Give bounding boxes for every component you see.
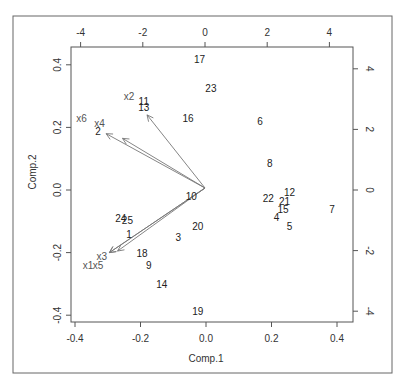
biplot-figure: -0.4-0.20.00.20.4-0.4-0.20.00.20.4-4-202… [0,0,402,383]
bottom-tick-label: 0.2 [265,333,279,344]
biplot-chart: -0.4-0.20.00.20.4-0.4-0.20.00.20.4-4-202… [0,0,402,383]
bottom-tick-label: 0.0 [199,333,213,344]
observation-label-10: 10 [186,191,198,202]
observation-label-19: 19 [192,306,204,317]
right-tick-label: 0 [364,187,375,193]
observation-label-13: 13 [138,102,150,113]
left-tick-label: 0.0 [52,183,63,197]
variable-label-x6: x6 [76,113,87,124]
left-tick-label: 0.2 [52,120,63,134]
observation-label-22: 22 [263,193,275,204]
observation-label-2: 2 [95,126,101,137]
observation-label-18: 18 [137,248,149,259]
top-tick-label: 0 [202,27,208,38]
y-axis-title: Comp.2 [27,154,38,189]
bottom-tick-label: -0.2 [132,333,150,344]
variable-label-x5: x5 [93,260,104,271]
observation-label-14: 14 [156,279,168,290]
observation-label-5: 5 [287,221,293,232]
observation-label-8: 8 [267,158,273,169]
right-tick-label: 4 [364,66,375,72]
bottom-tick-label: 0.4 [330,333,344,344]
x-axis-title: Comp.1 [188,353,223,364]
observation-label-25: 25 [122,215,134,226]
top-tick-label: 4 [327,27,333,38]
observation-label-3: 3 [175,232,181,243]
top-tick-label: 2 [264,27,270,38]
observation-label-20: 20 [192,221,204,232]
observation-label-1: 1 [126,229,132,240]
observation-label-21: 21 [279,196,291,207]
observation-label-17: 17 [194,54,206,65]
bottom-tick-label: -0.4 [66,333,84,344]
right-tick-label: 2 [364,127,375,133]
observation-label-9: 9 [146,260,152,271]
variable-label-x2: x2 [124,91,135,102]
observation-label-6: 6 [257,116,263,127]
left-tick-label: -0.4 [52,306,63,324]
right-tick-label: -4 [364,307,375,316]
left-tick-label: -0.2 [52,244,63,262]
observation-label-16: 16 [182,113,194,124]
right-tick-label: -2 [364,246,375,255]
observation-label-23: 23 [205,83,217,94]
left-tick-label: 0.4 [52,57,63,71]
top-tick-label: -4 [76,27,85,38]
observation-label-7: 7 [329,204,335,215]
top-tick-label: -2 [138,27,147,38]
